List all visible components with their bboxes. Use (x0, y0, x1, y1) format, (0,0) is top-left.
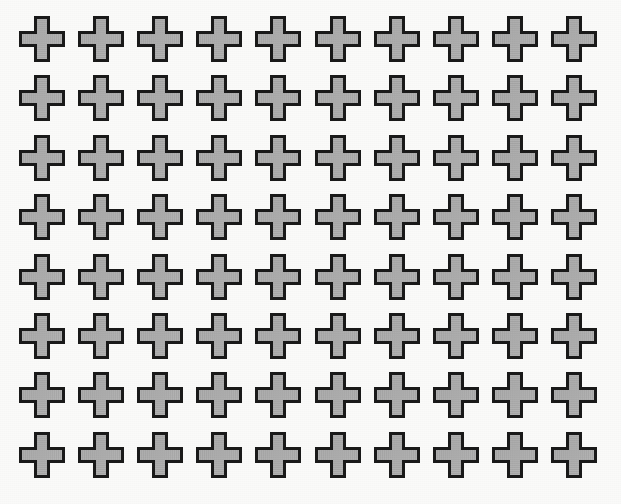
cross-icon (196, 75, 242, 121)
cross-icon (315, 313, 361, 359)
cross-shape (492, 135, 538, 181)
cross-shape (255, 372, 301, 418)
cross-icon (255, 135, 301, 181)
cross-icon (433, 313, 479, 359)
cross-shape (551, 16, 597, 62)
cross-icon (551, 432, 597, 478)
cross-shape (551, 75, 597, 121)
cross-row (0, 16, 621, 62)
cross-icon (137, 135, 183, 181)
cross-icon (255, 254, 301, 300)
cross-shape (492, 432, 538, 478)
cross-icon (551, 194, 597, 240)
cross-icon (255, 432, 301, 478)
cross-shape (492, 372, 538, 418)
cross-icon (78, 432, 124, 478)
cross-icon (315, 75, 361, 121)
cross-icon (19, 194, 65, 240)
cross-icon (492, 75, 538, 121)
cross-icon (374, 372, 420, 418)
cross-icon (315, 194, 361, 240)
cross-shape (315, 194, 361, 240)
cross-shape (492, 194, 538, 240)
cross-icon (551, 313, 597, 359)
cross-icon (137, 372, 183, 418)
cross-shape (433, 135, 479, 181)
cross-icon (196, 135, 242, 181)
cross-shape (137, 372, 183, 418)
cross-icon (374, 16, 420, 62)
cross-shape (315, 313, 361, 359)
cross-shape (19, 75, 65, 121)
cross-shape (492, 75, 538, 121)
cross-icon (492, 135, 538, 181)
cross-shape (551, 313, 597, 359)
cross-shape (19, 372, 65, 418)
cross-icon (78, 194, 124, 240)
cross-icon (196, 194, 242, 240)
cross-icon (551, 16, 597, 62)
cross-shape (196, 135, 242, 181)
cross-shape (19, 313, 65, 359)
cross-icon (433, 254, 479, 300)
cross-icon (137, 16, 183, 62)
cross-shape (78, 16, 124, 62)
cross-shape (137, 432, 183, 478)
cross-shape (551, 135, 597, 181)
cross-icon (137, 194, 183, 240)
cross-icon (196, 254, 242, 300)
cross-icon (78, 372, 124, 418)
cross-icon (255, 16, 301, 62)
cross-row (0, 254, 621, 300)
cross-icon (315, 16, 361, 62)
cross-icon (374, 432, 420, 478)
cross-shape (78, 254, 124, 300)
cross-shape (78, 75, 124, 121)
cross-shape (78, 194, 124, 240)
cross-shape (255, 16, 301, 62)
cross-shape (255, 313, 301, 359)
cross-shape (492, 313, 538, 359)
cross-shape (315, 75, 361, 121)
cross-shape (255, 254, 301, 300)
cross-icon (374, 194, 420, 240)
cross-icon (196, 372, 242, 418)
cross-shape (433, 432, 479, 478)
cross-icon (78, 135, 124, 181)
cross-icon (374, 313, 420, 359)
cross-shape (374, 432, 420, 478)
cross-shape (374, 75, 420, 121)
cross-icon (255, 75, 301, 121)
cross-icon (551, 372, 597, 418)
cross-shape (78, 135, 124, 181)
cross-icon (492, 254, 538, 300)
cross-icon (78, 254, 124, 300)
cross-icon (196, 432, 242, 478)
cross-icon (433, 16, 479, 62)
cross-icon (137, 432, 183, 478)
cross-icon (315, 135, 361, 181)
cross-row (0, 194, 621, 240)
cross-icon (19, 432, 65, 478)
cross-shape (374, 313, 420, 359)
cross-shape (196, 75, 242, 121)
cross-shape (19, 16, 65, 62)
cross-icon (137, 313, 183, 359)
cross-icon (196, 16, 242, 62)
pattern-canvas (0, 0, 621, 504)
cross-shape (78, 372, 124, 418)
cross-icon (492, 432, 538, 478)
cross-shape (433, 75, 479, 121)
cross-shape (374, 135, 420, 181)
cross-shape (374, 254, 420, 300)
cross-shape (433, 313, 479, 359)
cross-icon (433, 75, 479, 121)
cross-shape (492, 254, 538, 300)
cross-icon (19, 313, 65, 359)
cross-shape (19, 432, 65, 478)
cross-shape (315, 372, 361, 418)
cross-icon (374, 135, 420, 181)
cross-icon (374, 254, 420, 300)
cross-icon (255, 313, 301, 359)
cross-shape (315, 16, 361, 62)
